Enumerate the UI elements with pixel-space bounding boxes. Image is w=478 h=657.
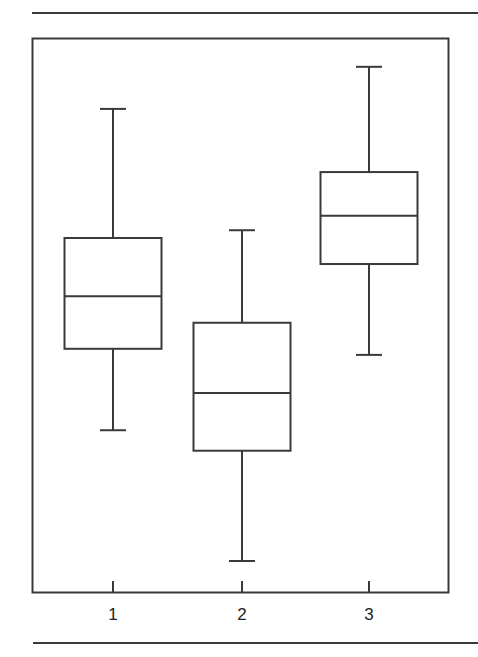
box-plot: 123: [0, 0, 478, 657]
box-2: [194, 230, 291, 561]
x-tick-label: 3: [364, 605, 373, 624]
box-1: [65, 109, 162, 430]
iqr-box: [194, 323, 291, 451]
boxes-group: [65, 67, 418, 561]
iqr-box: [65, 238, 162, 349]
box-3: [321, 67, 418, 355]
bottom-rule: [33, 642, 478, 644]
x-tick-label: 1: [108, 605, 117, 624]
x-tick-label: 2: [237, 605, 246, 624]
x-axis-ticks: 123: [108, 581, 373, 624]
iqr-box: [321, 172, 418, 264]
plot-frame: [33, 39, 449, 593]
